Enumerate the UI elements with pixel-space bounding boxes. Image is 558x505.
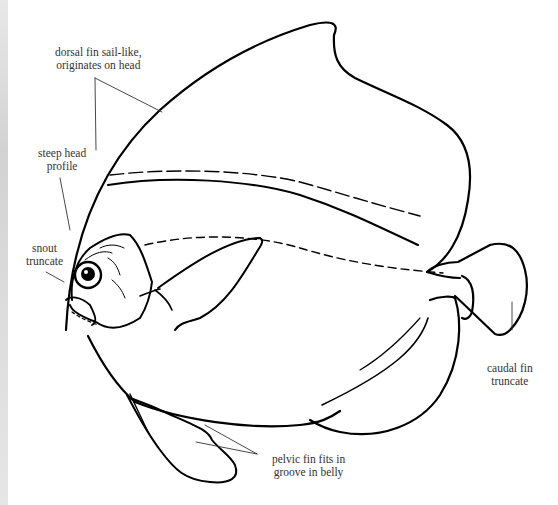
label-caudal-fin: caudal fin truncate xyxy=(487,362,533,388)
label-line: steep head xyxy=(38,147,86,160)
label-snout: snout truncate xyxy=(26,242,63,268)
label-line: profile xyxy=(38,160,86,173)
label-line: originates on head xyxy=(55,59,142,72)
label-line: caudal fin xyxy=(487,362,533,375)
label-line: pelvic fin fits in xyxy=(272,453,345,466)
label-head-profile: steep head profile xyxy=(38,147,86,173)
pelvic-fin xyxy=(127,395,236,482)
pectoral-fin xyxy=(158,238,262,330)
label-pelvic-fin: pelvic fin fits in groove in belly xyxy=(272,453,345,479)
anal-fin xyxy=(310,297,459,434)
fish-drawing xyxy=(0,0,558,505)
label-line: groove in belly xyxy=(272,466,345,479)
label-dorsal-fin: dorsal fin sail-like, originates on head xyxy=(55,46,142,72)
label-line: snout xyxy=(26,242,63,255)
label-line: truncate xyxy=(487,375,533,388)
label-line: dorsal fin sail-like, xyxy=(55,46,142,59)
label-line: truncate xyxy=(26,255,63,268)
head-outline xyxy=(70,234,152,328)
